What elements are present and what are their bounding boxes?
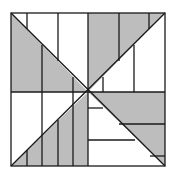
square-diagram: [0, 0, 178, 180]
